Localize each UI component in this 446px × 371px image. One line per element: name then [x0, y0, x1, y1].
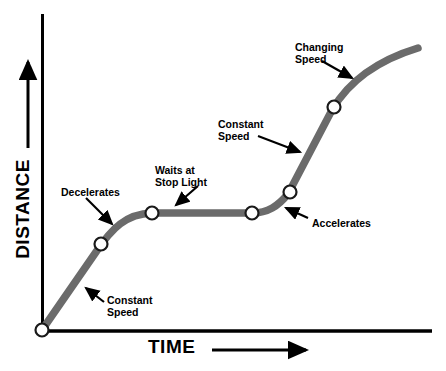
- leader-arrow-accelerates: [286, 208, 308, 218]
- y-axis-title: DISTANCE: [12, 139, 34, 279]
- annotation-changing-speed: Changing Speed: [295, 41, 343, 65]
- leader-arrow-constant-speed-mid: [258, 136, 300, 152]
- distance-time-graph: DISTANCE TIME Decelerates Waits at Stop …: [0, 0, 446, 371]
- data-point-marker: [328, 101, 341, 114]
- data-point-marker: [246, 207, 259, 220]
- annotation-waits-at-stop-light: Waits at Stop Light: [155, 164, 207, 188]
- data-point-marker: [284, 186, 297, 199]
- annotation-accelerates: Accelerates: [312, 217, 371, 229]
- leader-arrow-waits: [176, 186, 198, 205]
- x-axis-title: TIME: [148, 336, 195, 358]
- data-point-marker: [146, 207, 159, 220]
- leader-arrow-decelerates: [86, 198, 112, 224]
- leader-arrow-constant-speed-low: [86, 288, 104, 302]
- annotation-constant-speed-lower: Constant Speed: [107, 294, 153, 318]
- data-point-marker: [36, 324, 49, 337]
- annotation-decelerates: Decelerates: [61, 186, 120, 198]
- data-point-marker: [95, 238, 108, 251]
- annotation-constant-speed-middle: Constant Speed: [218, 118, 264, 142]
